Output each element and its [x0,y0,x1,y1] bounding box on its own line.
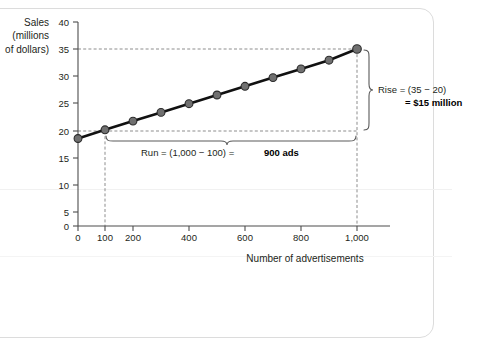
y-tick-label-15: 15 [58,153,69,164]
data-point [74,135,82,143]
x-tick-label-0: 0 [75,232,80,243]
y-axis-ticks [73,22,78,226]
x-tick-label-100: 100 [97,232,113,243]
y-axis-title: Sales (millions of dollars) [5,17,49,55]
y-axis-tick-labels: 40 35 30 25 20 15 10 5 0 [58,17,69,232]
y-tick-label-30: 30 [58,71,69,82]
y-tick-label-5: 5 [64,207,69,218]
data-point [241,82,249,90]
data-point [213,91,221,99]
y-tick-label-25: 25 [58,98,69,109]
x-tick-label-200: 200 [125,232,141,243]
data-point [325,56,333,64]
x-tick-label-600: 600 [237,232,253,243]
rise-annotation-value: = $15 million [405,97,462,108]
y-tick-label-35: 35 [58,44,69,55]
x-tick-label-1000: 1,000 [345,232,369,243]
x-axis-tick-labels: 0 100 200 400 600 800 1,000 [75,232,369,243]
reference-lines [78,49,357,226]
run-brace [106,136,356,145]
y-axis-title-line-1: Sales [24,17,49,28]
y-tick-label-40: 40 [58,17,69,28]
x-axis-title: Number of advertisements [246,253,363,264]
y-axis-title-line-2: (millions [12,30,49,41]
y-tick-label-20: 20 [58,126,69,137]
run-annotation-text: Run = (1,000 − 100) = [141,147,235,158]
rise-annotation-text: Rise = (35 − 20) [378,84,446,95]
data-point [353,45,362,54]
data-point [185,100,193,108]
run-annotation: Run = (1,000 − 100) = 900 ads [141,147,299,158]
x-tick-label-400: 400 [181,232,197,243]
rise-brace [364,50,373,130]
data-point-markers [74,45,361,143]
data-point [269,74,277,82]
data-point [157,109,165,117]
data-point [101,126,109,134]
rise-annotation: Rise = (35 − 20) = $15 million [378,84,462,108]
y-tick-label-0: 0 [64,221,69,232]
y-axis-title-line-3: of dollars) [5,44,49,55]
x-axis-ticks [78,226,357,231]
run-annotation-value: 900 ads [264,147,299,158]
data-point [129,117,137,125]
y-tick-label-10: 10 [58,180,69,191]
data-point [297,65,305,73]
x-tick-label-800: 800 [293,232,309,243]
